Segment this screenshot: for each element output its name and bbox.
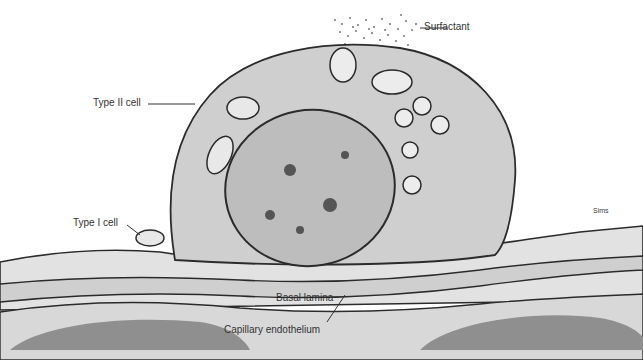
label-capillary-endothelium: Capillary endothelium	[224, 324, 320, 335]
label-basal-lamina: Basal lamina	[276, 292, 333, 303]
surfactant-particles	[334, 14, 417, 49]
label-type1-cell: Type I cell	[73, 217, 118, 228]
label-signature: Sims	[593, 207, 609, 214]
diagram-canvas	[0, 0, 643, 360]
alveolar-diagram: Surfactant Type II cell Type I cell Basa…	[0, 0, 643, 360]
type1-leader	[127, 225, 140, 235]
label-surfactant: Surfactant	[424, 21, 470, 32]
label-type2-cell: Type II cell	[93, 97, 141, 108]
